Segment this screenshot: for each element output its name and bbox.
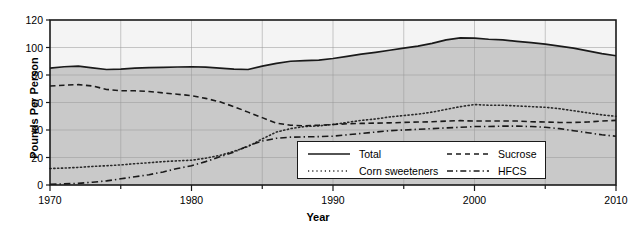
x-tick-label: 2000 (445, 195, 505, 205)
y-tick-label: 80 (9, 70, 43, 80)
y-tick-label: 60 (9, 98, 43, 108)
legend-swatch-total (307, 148, 351, 160)
legend-swatch-corn-sweeteners (307, 165, 351, 177)
legend-swatch-hfcs (446, 165, 490, 177)
legend-item-total: Total (307, 145, 381, 162)
legend-label-corn-sweeteners: Corn sweeteners (359, 165, 438, 177)
legend-swatch-sucrose (446, 148, 490, 160)
legend-item-sucrose: Sucrose (446, 145, 537, 162)
x-tick-label: 1980 (162, 195, 222, 205)
legend-label-hfcs: HFCS (498, 165, 527, 177)
y-tick-label: 120 (9, 15, 43, 25)
chart-legend: Total Corn sweeteners Sucrose HFCS (297, 141, 546, 179)
x-tick-label: 2010 (586, 195, 636, 205)
y-tick-label: 100 (9, 43, 43, 53)
x-axis-title: Year (0, 211, 636, 223)
y-tick-label: 20 (9, 153, 43, 163)
legend-label-total: Total (359, 148, 381, 160)
x-tick-label: 1990 (303, 195, 363, 205)
x-tick-label: 1970 (20, 195, 80, 205)
figure-container: Pounds Per Person Year 020406080100120 1… (0, 0, 636, 235)
legend-item-hfcs: HFCS (446, 162, 527, 179)
legend-label-sucrose: Sucrose (498, 148, 537, 160)
y-tick-label: 0 (9, 180, 43, 190)
legend-item-corn-sweeteners: Corn sweeteners (307, 162, 438, 179)
y-tick-label: 40 (9, 125, 43, 135)
